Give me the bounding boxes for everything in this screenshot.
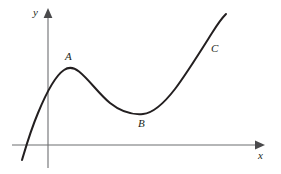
graph-figure: y x A B C [0, 0, 281, 174]
y-axis-label: y [33, 7, 38, 18]
x-axis-label: x [258, 150, 263, 161]
point-label-b: B [138, 118, 145, 129]
point-label-c: C [211, 43, 218, 54]
y-axis-arrow-icon [44, 8, 53, 18]
point-label-a: A [65, 51, 72, 62]
coordinate-plot [0, 0, 281, 174]
cubic-curve [22, 14, 226, 160]
